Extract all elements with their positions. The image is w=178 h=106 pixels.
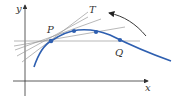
point-q-label: Q [115,48,123,58]
tangent-line-t [22,12,88,62]
secant-tangent-diagram [0,0,178,106]
point-p [49,39,54,44]
secant-line-q [14,27,125,46]
point-p-label: P [47,25,54,35]
arrow-icon [109,13,146,36]
point-q [118,38,122,42]
x-axis-label: x [145,83,151,93]
point-2 [94,30,98,34]
point-1 [72,29,76,33]
secant-line-3 [17,17,88,56]
y-axis-label: y [16,4,22,14]
tangent-label: T [89,5,96,15]
